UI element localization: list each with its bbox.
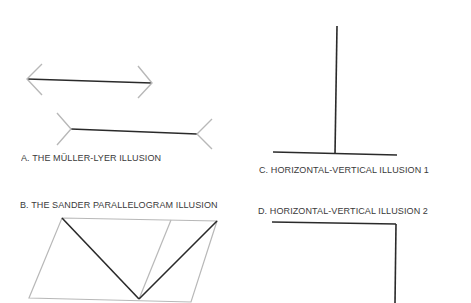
muller-lyer-shaft-bottom — [71, 129, 197, 134]
caption-horizontal-vertical-1: C. HORIZONTAL-VERTICAL ILLUSION 1 — [259, 164, 429, 175]
caption-muller-lyer: A. THE MÜLLER-LYER ILLUSION — [21, 152, 161, 163]
fin-right — [197, 119, 212, 149]
caption-sander-parallelogram: B. THE SANDER PARALLELOGRAM ILLUSION — [20, 199, 218, 210]
horizontal-vertical-2-figure — [272, 222, 396, 303]
horizontal-vertical-1-figure — [273, 26, 397, 155]
horizontal-line — [272, 222, 396, 224]
long-diagonal — [62, 218, 139, 299]
vertical-line — [335, 26, 337, 154]
vertical-line — [395, 224, 396, 303]
short-diagonal — [139, 221, 217, 299]
fin-left — [57, 113, 71, 145]
caption-horizontal-vertical-2: D. HORIZONTAL-VERTICAL ILLUSION 2 — [258, 205, 428, 216]
muller-lyer-figure — [27, 64, 212, 149]
sander-parallelogram-figure — [29, 218, 217, 302]
muller-lyer-shaft-top — [27, 79, 152, 83]
parallelogram-outline — [29, 218, 217, 302]
parallelogram-divider — [139, 220, 171, 299]
